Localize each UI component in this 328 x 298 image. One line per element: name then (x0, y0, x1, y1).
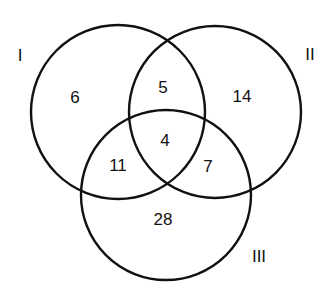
region-I-only: 6 (70, 88, 79, 107)
region-I-II: 5 (158, 78, 167, 97)
circle-set-II (129, 26, 301, 198)
set-label-II: II (305, 45, 314, 64)
set-label-I: I (18, 46, 23, 65)
region-II-III: 7 (203, 157, 212, 176)
venn-diagram: I II III 6 14 28 5 11 7 4 (0, 0, 328, 298)
set-label-III: III (252, 247, 266, 266)
region-III-only: 28 (154, 210, 173, 229)
region-I-II-III: 4 (160, 131, 169, 150)
region-I-III: 11 (109, 156, 127, 175)
region-II-only: 14 (233, 87, 252, 106)
